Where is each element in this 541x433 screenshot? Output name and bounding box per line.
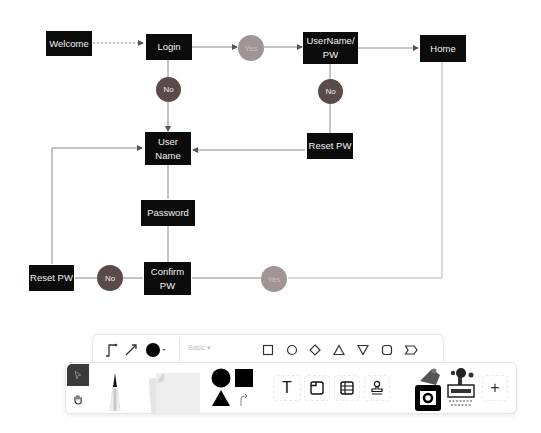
node-reset-pw-top[interactable]: Reset PW (307, 133, 353, 159)
node-welcome[interactable]: Welcome (46, 31, 92, 56)
line-style-select[interactable]: Basic ▾ (188, 344, 211, 352)
pen-icon (100, 365, 130, 411)
shapes-icon (211, 366, 255, 412)
camera-sticker-button[interactable] (412, 365, 444, 411)
node-login[interactable]: Login (146, 34, 192, 60)
node-user-name[interactable]: User Name (145, 132, 191, 165)
arrow-line-icon[interactable] (123, 342, 139, 358)
elbow-connector-icon[interactable] (103, 342, 119, 358)
frame-icon (309, 380, 325, 396)
node-confirm-pw[interactable]: Confirm PW (144, 262, 191, 295)
add-button[interactable]: + (482, 375, 508, 401)
decision-no-confirm[interactable]: No (97, 265, 123, 291)
plus-icon: + (490, 379, 499, 397)
pen-tool-button[interactable] (100, 365, 130, 411)
decision-yes-confirm[interactable]: Yes (261, 266, 287, 292)
stamp-tool-button[interactable] (364, 375, 390, 401)
node-password[interactable]: Password (141, 200, 195, 226)
color-picker-icon[interactable] (145, 342, 169, 358)
decision-no-username-pw[interactable]: No (318, 79, 343, 104)
decision-yes-login[interactable]: Yes (238, 35, 264, 61)
sticky-notes-button[interactable] (146, 369, 204, 413)
text-icon: T (282, 379, 292, 397)
pointer-icon (73, 370, 83, 380)
text-tool-button[interactable]: T (273, 375, 301, 401)
stamp-icon (370, 380, 384, 396)
node-home[interactable]: Home (420, 35, 466, 62)
frame-tool-button[interactable] (304, 375, 330, 401)
divider (179, 339, 180, 363)
select-tool-button[interactable] (67, 364, 89, 386)
callout-shape-icon[interactable] (403, 342, 419, 358)
decision-no-login[interactable]: No (156, 77, 181, 102)
table-tool-button[interactable] (334, 375, 360, 401)
whiteboard-canvas[interactable]: Welcome Login UserName/ PW Home Reset PW… (0, 0, 541, 330)
diamond-shape-icon[interactable] (307, 342, 323, 358)
circle-shape-icon[interactable] (284, 342, 300, 358)
shapes-tool-button[interactable] (211, 366, 255, 412)
hand-icon (72, 393, 84, 405)
table-icon (339, 380, 355, 396)
camera-sticker-icon (412, 365, 444, 411)
sticky-notes-icon (146, 369, 204, 413)
triangle-shape-icon[interactable] (331, 342, 347, 358)
node-username-pw[interactable]: UserName/ PW (303, 32, 358, 64)
main-toolbar: T + (65, 362, 517, 414)
line-style-label: Basic (188, 344, 205, 351)
node-reset-pw-bottom[interactable]: Reset PW (29, 265, 74, 291)
hand-tool-button[interactable] (67, 388, 89, 410)
rounded-rectangle-shape-icon[interactable] (379, 342, 395, 358)
inverted-triangle-shape-icon[interactable] (355, 342, 371, 358)
stamp-sticker-button[interactable] (444, 365, 478, 409)
stamp-sticker-icon (444, 365, 478, 409)
rectangle-shape-icon[interactable] (260, 342, 276, 358)
shape-options-toolbar: Basic ▾ (92, 334, 444, 365)
